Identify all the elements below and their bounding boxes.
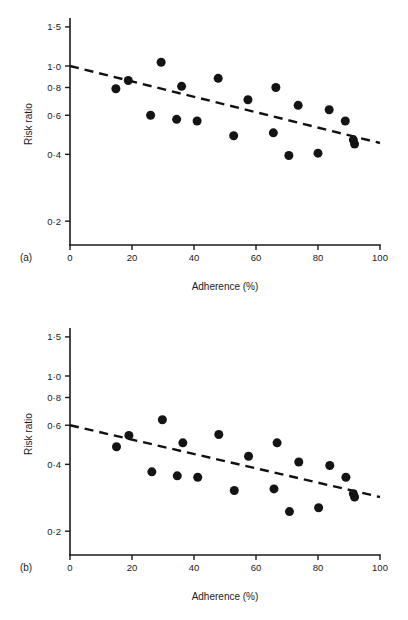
data-point (294, 457, 303, 466)
data-point (173, 471, 182, 480)
panel-tag-label: (a) (20, 252, 32, 263)
data-point (314, 149, 323, 158)
data-point (244, 452, 253, 461)
x-tick-label: 40 (189, 562, 200, 573)
data-point (350, 140, 359, 149)
y-tick-label: 1·5 (47, 331, 61, 342)
panel-b-plot: 1·51·00·80·60·40·2020406080100Risk ratio… (0, 310, 408, 620)
data-point (285, 507, 294, 516)
data-point (284, 151, 293, 160)
data-point (112, 442, 121, 451)
y-tick-label: 0·4 (47, 149, 61, 160)
data-point (229, 131, 238, 140)
x-tick-label: 100 (372, 252, 388, 263)
regression-line (70, 425, 380, 497)
x-tick-label: 0 (67, 562, 72, 573)
y-tick-label: 0·8 (47, 392, 61, 403)
data-point (314, 503, 323, 512)
data-point (178, 438, 187, 447)
data-point (193, 117, 202, 126)
y-axis-title: Risk ratio (23, 413, 34, 455)
data-point (269, 484, 278, 493)
panel-a: 1·51·00·80·60·40·2020406080100Risk ratio… (0, 0, 408, 310)
x-tick-label: 80 (313, 562, 324, 573)
x-tick-label: 0 (67, 252, 72, 263)
y-axis-title: Risk ratio (23, 103, 34, 145)
data-point (269, 128, 278, 137)
data-point (273, 438, 282, 447)
data-point (325, 461, 334, 470)
y-tick-label: 0·2 (47, 216, 61, 227)
data-point (157, 58, 166, 67)
data-point (341, 117, 350, 126)
data-point (243, 95, 252, 104)
panel-a-plot: 1·51·00·80·60·40·2020406080100Risk ratio… (0, 0, 408, 310)
data-point (172, 115, 181, 124)
panel-tag-label: (b) (20, 562, 32, 573)
data-point (147, 467, 156, 476)
data-point (294, 101, 303, 110)
data-point (341, 473, 350, 482)
data-point (146, 111, 155, 120)
x-tick-label: 40 (189, 252, 200, 263)
y-tick-label: 0·2 (47, 526, 61, 537)
x-axis-title: Adherence (%) (192, 591, 259, 602)
y-tick-label: 1·0 (47, 371, 61, 382)
data-point (193, 473, 202, 482)
data-point (124, 431, 133, 440)
x-tick-label: 60 (251, 252, 262, 263)
x-tick-label: 20 (127, 562, 138, 573)
x-tick-label: 60 (251, 562, 262, 573)
panel-b: 1·51·00·80·60·40·2020406080100Risk ratio… (0, 310, 408, 620)
y-tick-label: 0·6 (47, 420, 61, 431)
data-point (230, 486, 239, 495)
data-point (111, 84, 120, 93)
data-point (124, 76, 133, 85)
data-point (350, 493, 359, 502)
x-tick-label: 80 (313, 252, 324, 263)
data-point (271, 83, 280, 92)
data-point (325, 105, 334, 114)
x-tick-label: 20 (127, 252, 138, 263)
x-axis-title: Adherence (%) (192, 281, 259, 292)
y-tick-label: 0·8 (47, 82, 61, 93)
scatter-figure: 1·51·00·80·60·40·2020406080100Risk ratio… (0, 0, 408, 620)
data-point (214, 74, 223, 83)
data-point (214, 430, 223, 439)
y-tick-label: 0·4 (47, 459, 61, 470)
y-tick-label: 0·6 (47, 110, 61, 121)
x-tick-label: 100 (372, 562, 388, 573)
y-tick-label: 1·0 (47, 61, 61, 72)
data-point (177, 82, 186, 91)
data-point (158, 415, 167, 424)
regression-line (70, 66, 380, 143)
y-tick-label: 1·5 (47, 21, 61, 32)
